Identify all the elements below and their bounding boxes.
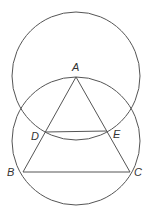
label-E: E (113, 128, 121, 140)
segment-DE (45, 131, 107, 132)
geometry-diagram: A B C D E (0, 0, 150, 214)
upper-circle (12, 12, 140, 140)
label-A: A (71, 61, 79, 73)
label-B: B (7, 166, 14, 178)
segment-AC (76, 77, 130, 172)
label-D: D (31, 130, 39, 142)
label-C: C (134, 166, 142, 178)
segment-AB (23, 77, 76, 172)
